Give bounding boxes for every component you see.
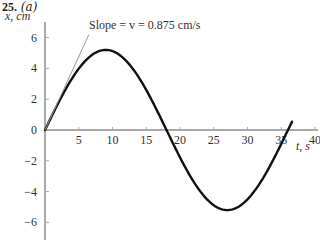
x-tick-label: 15	[140, 133, 152, 147]
axes	[45, 22, 318, 240]
x-tick-label: 5	[76, 133, 82, 147]
x-tick-label: 20	[174, 133, 186, 147]
y-axis-label: x, cm	[4, 9, 31, 23]
x-axis-label: t, s	[296, 139, 310, 153]
y-tick-label: −4	[24, 185, 37, 199]
y-tick-label: 6	[31, 31, 37, 45]
series	[45, 35, 292, 211]
y-tick-label: 0	[31, 123, 37, 137]
y-tick-label: −2	[24, 154, 37, 168]
y-tick-label: 4	[31, 61, 37, 75]
figure: 25. (a) 5101520253035406420−2−4−6 x, cm …	[0, 0, 320, 245]
x-tick-label: 10	[107, 133, 119, 147]
position-time-chart: 5101520253035406420−2−4−6 x, cm t, s Slo…	[0, 0, 320, 245]
tangent-line	[45, 35, 89, 130]
x-tick-label: 30	[242, 133, 254, 147]
x-tick-label: 25	[208, 133, 220, 147]
y-tick-label: 2	[31, 92, 37, 106]
slope-annotation: Slope = v = 0.875 cm/s	[89, 18, 201, 32]
x-tick-label: 40	[309, 133, 320, 147]
y-tick-label: −6	[24, 215, 37, 229]
